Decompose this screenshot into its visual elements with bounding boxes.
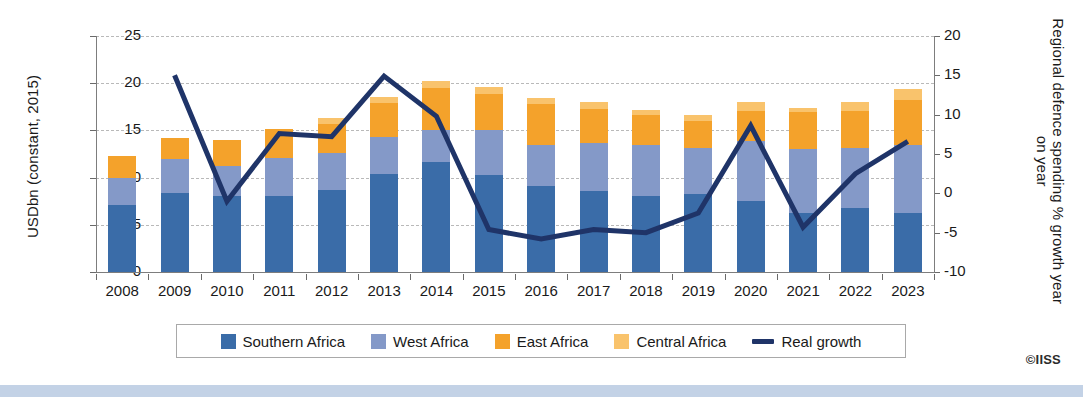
bar-segment: [737, 111, 765, 141]
bar-group[interactable]: [632, 36, 660, 272]
x-tick-mark: [253, 274, 254, 280]
right-axis-title: Regional defence spending % growth year …: [1034, 16, 1066, 306]
bar-segment: [684, 148, 712, 193]
x-tick-label: 2021: [773, 282, 833, 299]
bar-segment: [475, 175, 503, 272]
bar-segment: [213, 140, 241, 166]
right-tick-label: 0: [944, 183, 978, 200]
bar-series-layer: [96, 36, 934, 272]
legend-label: Central Africa: [636, 333, 726, 350]
chart-legend: Southern AfricaWest AfricaEast AfricaCen…: [176, 324, 906, 358]
bar-segment: [894, 100, 922, 144]
bar-segment: [894, 89, 922, 100]
x-tick-mark: [620, 274, 621, 280]
bar-segment: [684, 115, 712, 121]
bar-group[interactable]: [161, 36, 189, 272]
bar-segment: [161, 138, 189, 159]
bar-segment: [370, 137, 398, 174]
legend-line-icon: [752, 339, 774, 344]
legend-item[interactable]: Southern Africa: [221, 333, 346, 350]
bar-segment: [422, 162, 450, 272]
bar-segment: [318, 153, 346, 190]
bar-segment: [318, 190, 346, 272]
left-axis-title: USDbn (constant, 2015): [24, 37, 41, 277]
right-tick-label: 20: [944, 26, 978, 43]
legend-item[interactable]: West Africa: [371, 333, 469, 350]
bar-segment: [632, 115, 660, 144]
legend-label: East Africa: [517, 333, 589, 350]
bar-segment: [370, 103, 398, 137]
bar-segment: [265, 158, 293, 196]
footer-banner: [0, 385, 1083, 397]
legend-swatch-icon: [371, 334, 386, 349]
x-tick-mark: [96, 274, 97, 280]
x-tick-label: 2023: [878, 282, 938, 299]
legend-swatch-icon: [495, 334, 510, 349]
x-tick-mark: [672, 274, 673, 280]
bar-segment: [370, 174, 398, 272]
x-tick-mark: [515, 274, 516, 280]
bar-group[interactable]: [684, 36, 712, 272]
x-tick-mark: [306, 274, 307, 280]
right-tick-label: 10: [944, 105, 978, 122]
bar-segment: [527, 145, 555, 187]
x-tick-label: 2019: [668, 282, 728, 299]
bar-segment: [265, 196, 293, 272]
x-tick-label: 2022: [825, 282, 885, 299]
bar-segment: [789, 108, 817, 113]
x-tick-mark: [148, 274, 149, 280]
legend-item[interactable]: Real growth: [752, 333, 861, 350]
bar-segment: [475, 130, 503, 174]
bar-group[interactable]: [422, 36, 450, 272]
bar-segment: [265, 129, 293, 157]
bar-group[interactable]: [370, 36, 398, 272]
legend-label: West Africa: [393, 333, 469, 350]
x-tick-mark: [725, 274, 726, 280]
bar-segment: [108, 178, 136, 205]
bar-segment: [684, 121, 712, 148]
bar-segment: [841, 111, 869, 149]
bar-segment: [161, 159, 189, 193]
bar-segment: [527, 98, 555, 104]
bar-group[interactable]: [527, 36, 555, 272]
bar-group[interactable]: [580, 36, 608, 272]
bar-segment: [108, 156, 136, 178]
bar-segment: [789, 149, 817, 213]
bar-segment: [370, 97, 398, 103]
bar-segment: [422, 88, 450, 130]
legend-item[interactable]: Central Africa: [614, 333, 726, 350]
bar-segment: [108, 205, 136, 272]
x-tick-label: 2013: [354, 282, 414, 299]
bar-segment: [737, 201, 765, 272]
bar-segment: [684, 194, 712, 272]
bar-group[interactable]: [737, 36, 765, 272]
x-tick-label: 2017: [564, 282, 624, 299]
legend-item[interactable]: East Africa: [495, 333, 589, 350]
bar-segment: [580, 191, 608, 272]
bar-group[interactable]: [789, 36, 817, 272]
x-tick-label: 2020: [721, 282, 781, 299]
bar-group[interactable]: [265, 36, 293, 272]
bar-segment: [580, 102, 608, 109]
right-tick-label: 15: [944, 65, 978, 82]
bar-segment: [894, 213, 922, 272]
right-axis-spine: [934, 36, 935, 273]
legend-label: Southern Africa: [243, 333, 346, 350]
bar-group[interactable]: [108, 36, 136, 272]
right-tick-label: -10: [944, 262, 978, 279]
bar-group[interactable]: [475, 36, 503, 272]
bar-group[interactable]: [894, 36, 922, 272]
x-tick-mark: [201, 274, 202, 280]
x-tick-mark: [829, 274, 830, 280]
bar-segment: [527, 104, 555, 145]
bar-group[interactable]: [213, 36, 241, 272]
x-tick-mark: [882, 274, 883, 280]
bar-group[interactable]: [318, 36, 346, 272]
bar-segment: [213, 196, 241, 272]
x-tick-label: 2015: [459, 282, 519, 299]
legend-label: Real growth: [781, 333, 861, 350]
x-tick-label: 2010: [197, 282, 257, 299]
bar-segment: [580, 143, 608, 191]
bar-segment: [318, 118, 346, 124]
bar-group[interactable]: [841, 36, 869, 272]
